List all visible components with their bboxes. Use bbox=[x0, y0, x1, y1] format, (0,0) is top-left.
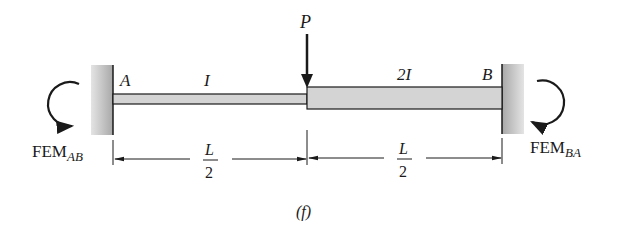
svg-text:2: 2 bbox=[205, 164, 213, 181]
dimension-left-fraction: L 2 bbox=[203, 141, 218, 181]
svg-text:L: L bbox=[398, 140, 408, 157]
dimension-right-fraction: L 2 bbox=[397, 140, 412, 180]
fem-ab-label: FEMAB bbox=[32, 142, 83, 164]
inertia-label-left: I bbox=[203, 71, 211, 90]
load-label: P bbox=[299, 12, 311, 32]
support-label-a: A bbox=[119, 71, 131, 90]
moment-arrow-ba-icon bbox=[532, 80, 564, 124]
fixed-beam-diagram: P A B I 2I FEMAB FEMBA L 2 L 2 (f) bbox=[0, 0, 621, 230]
inertia-label-right: 2I bbox=[397, 65, 413, 84]
dimension-lines bbox=[113, 130, 502, 165]
fem-ba-label: FEMBA bbox=[530, 138, 581, 160]
left-fixed-support bbox=[91, 65, 113, 135]
figure-caption: (f) bbox=[296, 203, 311, 221]
moment-arrow-ab-icon bbox=[48, 82, 79, 126]
beam-segment-I bbox=[113, 94, 307, 104]
svg-text:2: 2 bbox=[399, 163, 407, 180]
svg-text:L: L bbox=[204, 141, 214, 158]
support-label-b: B bbox=[482, 65, 493, 84]
beam-segment-2I bbox=[307, 87, 502, 109]
point-load-arrow bbox=[301, 34, 313, 88]
right-fixed-support bbox=[502, 64, 524, 134]
